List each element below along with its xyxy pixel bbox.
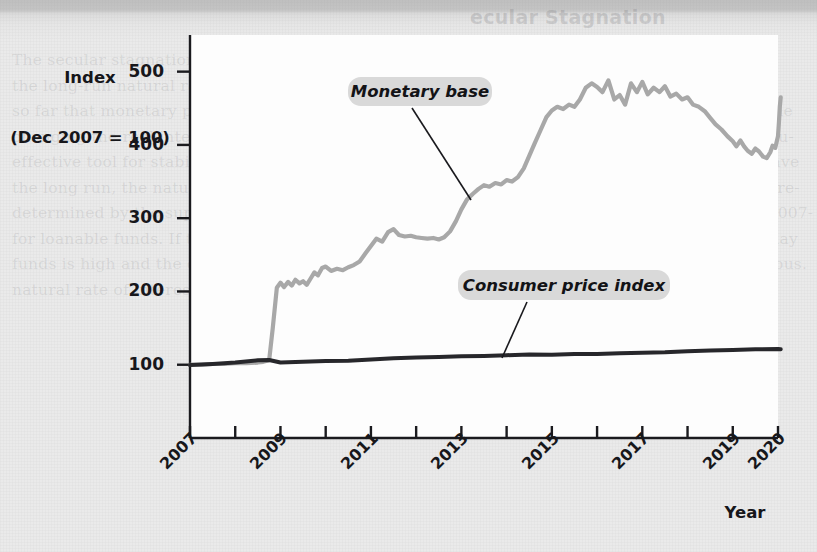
series-line-consumer-price-index — [190, 349, 781, 365]
series-layer — [190, 80, 781, 365]
series-line-monetary-base — [190, 80, 781, 364]
y-axis-tick-label: 400 — [102, 134, 164, 154]
y-axis-tick-label: 500 — [102, 61, 164, 81]
leader-line-consumer-price-index — [502, 302, 527, 358]
y-axis-tick-label: 300 — [102, 207, 164, 227]
x-axis-title: Year — [700, 503, 790, 523]
y-axis-title: Index (Dec 2007 = 100) — [0, 28, 180, 188]
y-axis-tick-label: 200 — [102, 280, 164, 300]
series-label-monetary-base: Monetary base — [348, 77, 492, 106]
series-label-consumer-price-index: Consumer price index — [458, 270, 670, 300]
figure-monetary-base-vs-cpi: Index (Dec 2007 = 100) Year 100200300400… — [0, 0, 817, 552]
y-axis-tick-label: 100 — [102, 354, 164, 374]
annotation-leader-lines — [412, 108, 527, 358]
leader-line-monetary-base — [412, 108, 471, 200]
